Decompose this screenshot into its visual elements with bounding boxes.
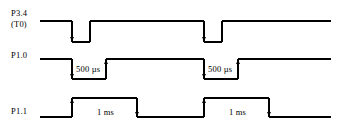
annotation-500us-first: 500 µs [76,64,100,74]
trace-p11 [40,98,331,117]
annotation-1ms-second: 1 ms [229,107,246,117]
annotation-500us-second: 500 µs [208,64,232,74]
annotation-1ms-first: 1 ms [97,107,114,117]
edge-markers-p34 [72,34,204,41]
timing-diagram: P3.4 (T0) P1.0 P1.1 [0,0,341,134]
trace-p34 [40,21,331,42]
waveform-traces [0,0,341,134]
